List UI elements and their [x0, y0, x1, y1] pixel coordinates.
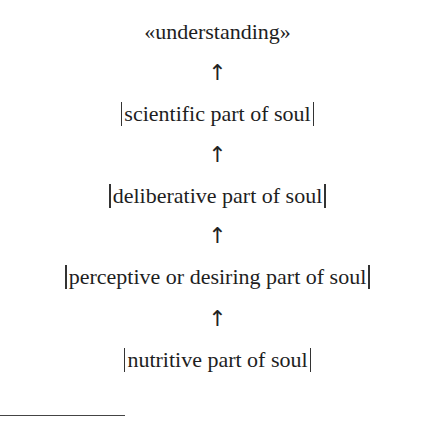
nutritive-part-text: nutritive part of soul [127, 347, 307, 372]
right-bar [313, 102, 315, 126]
scientific-part-label: scientific part of soul [0, 101, 435, 127]
left-bar [121, 102, 123, 126]
perceptive-desiring-part-label: perceptive or desiring part of soul [0, 264, 435, 290]
scientific-part-text: scientific part of soul [124, 101, 310, 126]
nutritive-part-label: nutritive part of soul [0, 347, 435, 373]
up-arrow-icon: ↑ [0, 142, 435, 168]
left-bar [65, 265, 67, 289]
right-bar [310, 348, 312, 372]
up-arrow-icon: ↑ [0, 223, 435, 249]
up-arrow-icon: ↑ [0, 60, 435, 86]
footnote-rule [0, 415, 125, 416]
understanding-text: «understanding» [144, 19, 291, 44]
deliberative-part-text: deliberative part of soul [113, 183, 323, 208]
right-bar [368, 265, 370, 289]
perceptive-desiring-part-text: perceptive or desiring part of soul [69, 264, 367, 289]
right-bar [324, 184, 326, 208]
up-arrow-icon: ↑ [0, 306, 435, 332]
understanding-label: «understanding» [0, 19, 435, 45]
left-bar [109, 184, 111, 208]
deliberative-part-label: deliberative part of soul [0, 183, 435, 209]
left-bar [124, 348, 126, 372]
